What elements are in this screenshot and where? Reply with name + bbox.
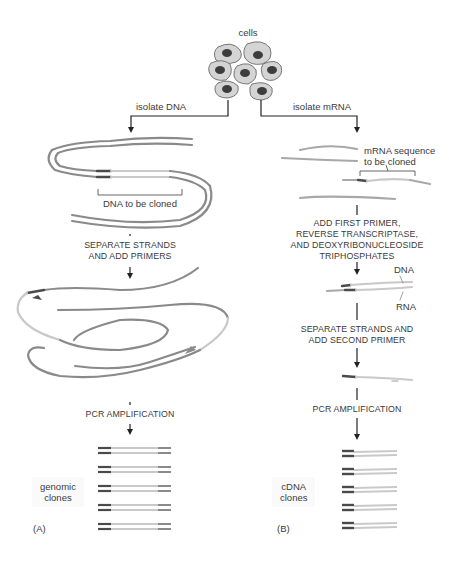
- separated-strands: [18, 268, 228, 377]
- dna-rna-hybrid: [327, 276, 412, 300]
- genomic-clone: [98, 505, 171, 510]
- step-separate-strands: SEPARATE STRANDS AND ADD PRIMERS: [84, 240, 176, 262]
- genomic-clone: [98, 467, 171, 472]
- genomic-clone: [98, 524, 171, 529]
- cdna-clone: [342, 469, 397, 474]
- genomic-dna-double-strand: [49, 138, 212, 228]
- panel-b-label: (B): [277, 523, 290, 534]
- cell: [215, 81, 238, 98]
- cdna-clone: [342, 451, 397, 456]
- isolate-mrna-label: isolate mRNA: [293, 101, 351, 112]
- step-pcr-amplification-b: PCR AMPLIFICATION: [312, 404, 401, 415]
- dna-strand-label: DNA: [394, 264, 414, 275]
- genomic-clones: [98, 448, 171, 529]
- cell: [244, 42, 271, 65]
- genomic-clone: [98, 486, 171, 491]
- cdna-clone: [342, 487, 397, 492]
- cells-cluster: [209, 42, 282, 100]
- step-pcr-amplification-a: PCR AMPLIFICATION: [85, 409, 174, 420]
- cell: [209, 61, 232, 81]
- cells-label: cells: [238, 27, 257, 38]
- cdna-clones-label: cDNA clones: [272, 477, 315, 507]
- primer-forward: [32, 295, 42, 300]
- genomic-clones-label: genomic clones: [32, 477, 84, 507]
- panel-a-label: (A): [33, 523, 46, 534]
- step-separate-add-second-primer: SEPARATE STRANDS AND ADD SECOND PRIMER: [301, 324, 414, 346]
- dna-to-be-cloned-label: DNA to be cloned: [103, 198, 177, 209]
- isolate-dna-label: isolate DNA: [136, 101, 186, 112]
- cdna-strand: [343, 376, 412, 381]
- genomic-clone: [98, 448, 171, 453]
- cdna-clone: [342, 505, 397, 510]
- rna-strand-label: RNA: [396, 301, 416, 312]
- cell: [234, 64, 257, 84]
- bracket-dna-to-be-cloned: [98, 189, 182, 195]
- cdna-clones: [342, 451, 397, 528]
- mrna-sequence-label: mRNA sequence to be cloned: [364, 145, 435, 167]
- cdna-clone: [342, 523, 397, 528]
- cell: [250, 83, 273, 100]
- cell: [261, 61, 281, 80]
- step-add-first-primer: ADD FIRST PRIMER, REVERSE TRANSCRIPTASE,…: [291, 218, 424, 262]
